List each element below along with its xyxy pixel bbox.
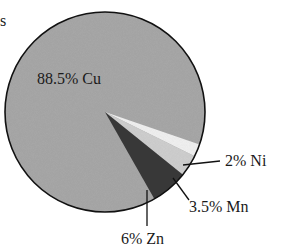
label-cu: 88.5% Cu — [37, 70, 101, 87]
pie-chart: 88.5% Cu 2% Ni 3.5% Mn 6% Zn — [0, 0, 288, 249]
leader-line-mn — [173, 178, 189, 200]
label-zn: 6% Zn — [121, 230, 164, 247]
label-ni: 2% Ni — [225, 152, 267, 169]
pie-slices — [5, 12, 205, 212]
label-mn: 3.5% Mn — [189, 198, 249, 215]
